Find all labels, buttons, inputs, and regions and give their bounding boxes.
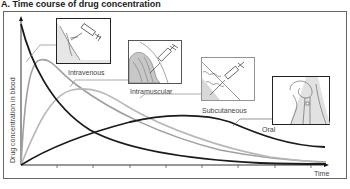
label-oral: Oral	[262, 126, 276, 133]
y-axis-arrow-icon	[19, 16, 23, 21]
x-axis-label: Time	[314, 170, 329, 177]
y-axis-label: Drug concentration in blood	[9, 77, 17, 163]
chart-canvas: Drug concentration in blood Time Intrave…	[0, 0, 350, 189]
label-subcutaneous: Subcutaneous	[202, 107, 247, 114]
callout-intravenous: Intravenous	[26, 19, 111, 77]
label-intravenous: Intravenous	[68, 69, 105, 76]
